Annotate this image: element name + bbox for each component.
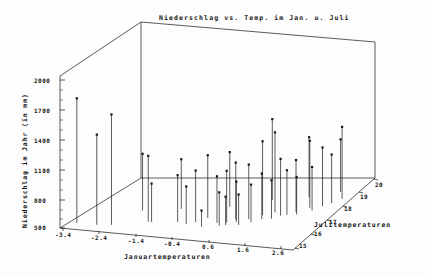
- data-point-23: [279, 158, 281, 160]
- data-point-24: [286, 169, 288, 171]
- data-point-31: [341, 126, 343, 128]
- x-tick-label-3: -0.4: [164, 241, 180, 247]
- data-point-10: [216, 175, 218, 177]
- x-tick-label-5: 1.6: [237, 247, 249, 253]
- axes-box-frame: [60, 22, 375, 250]
- frame-edge-z-axis: [293, 178, 375, 250]
- data-point-14: [235, 162, 237, 164]
- z-tick-label-1: 16: [314, 231, 322, 237]
- y-tick-label-5: 500: [34, 225, 46, 231]
- data-point-1: [96, 134, 98, 136]
- data-point-6: [185, 185, 187, 187]
- data-point-25: [295, 159, 297, 161]
- y-tick-label-4: 800: [34, 198, 46, 204]
- y-axis-ticks: [60, 80, 65, 228]
- x-tick-label-1: -2.4: [91, 235, 107, 241]
- data-point-26: [296, 176, 298, 178]
- data-point-37: [339, 138, 341, 140]
- data-point-13: [224, 196, 226, 198]
- frame-edge-top-back: [141, 22, 375, 42]
- data-point-33: [180, 158, 182, 160]
- data-point-28: [311, 166, 313, 168]
- chart-3d-scatter: Niederschlag vs. Temp. im Jan. u. Juli N…: [0, 0, 426, 276]
- data-point-8: [207, 154, 209, 156]
- x-tick-label-2: -1.4: [128, 238, 144, 244]
- data-stems: [77, 98, 342, 226]
- data-point-21: [274, 131, 276, 133]
- data-point-5: [177, 174, 179, 176]
- data-point-17: [248, 163, 250, 165]
- x-tick-label-4: 0.6: [202, 244, 214, 250]
- data-point-11: [218, 191, 220, 193]
- z-tick-label-2: 17: [329, 219, 337, 225]
- x-tick-label-6: 2.6: [272, 250, 284, 256]
- chart-title: Niederschlag vs. Temp. im Jan. u. Juli: [159, 15, 350, 22]
- z-tick-label-3: 18: [344, 206, 352, 212]
- z-tick-label-5: 20: [375, 182, 383, 188]
- data-point-36: [308, 136, 310, 138]
- y-tick-label-1: 1700: [34, 108, 50, 114]
- z-axis-ticks: [295, 179, 378, 249]
- y-tick-label-2: 1400: [34, 138, 50, 144]
- x-tick-label-0: -3.4: [55, 232, 71, 238]
- data-point-9: [200, 209, 202, 211]
- data-point-30: [331, 153, 333, 155]
- data-point-2: [110, 113, 112, 115]
- data-point-20: [261, 172, 263, 174]
- data-point-16: [238, 193, 240, 195]
- y-tick-label-3: 1100: [34, 168, 50, 174]
- data-point-34: [229, 151, 231, 153]
- y-tick-label-0: 2000: [34, 78, 50, 84]
- data-point-19: [261, 140, 263, 142]
- data-point-22: [270, 179, 272, 181]
- z-axis-title: Julitemperaturen: [314, 222, 391, 229]
- frame-edge-floor-left-depth: [60, 178, 141, 228]
- data-point-32: [141, 153, 143, 155]
- data-point-3: [147, 155, 149, 157]
- z-tick-label-4: 19: [360, 194, 368, 200]
- data-point-35: [271, 118, 273, 120]
- data-point-15: [235, 180, 237, 182]
- data-point-27: [309, 140, 311, 142]
- y-axis-title: Niederschlag im Jahr (in mm): [22, 93, 29, 228]
- data-point-12: [226, 170, 228, 172]
- data-point-7: [195, 169, 197, 171]
- data-point-markers: [76, 97, 343, 211]
- data-point-4: [150, 182, 152, 184]
- x-axis-title: Januartemperaturen: [124, 254, 211, 261]
- data-point-29: [321, 146, 323, 148]
- data-point-0: [76, 97, 78, 99]
- z-tick-label-0: 15: [299, 243, 307, 249]
- data-point-18: [250, 184, 252, 186]
- frame-edge-top-left-diagonal: [60, 22, 141, 76]
